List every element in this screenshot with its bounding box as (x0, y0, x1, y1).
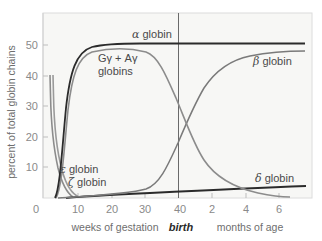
x-tick-6mo: 6 (276, 203, 282, 215)
delta-globin-label: δ globin (255, 172, 294, 185)
x-tick-0: 0 (33, 203, 39, 215)
beta-globin-label: β globin (252, 55, 292, 68)
x-tick-20: 20 (106, 203, 118, 215)
y-tick-40: 40 (26, 70, 38, 82)
gamma-globin-label-line1: Gγ + Aγ (98, 52, 138, 64)
x-tick-10: 10 (72, 203, 84, 215)
x-tick-30: 30 (139, 203, 151, 215)
epsilon-globin-label: ε globin (60, 163, 98, 176)
y-tick-30: 30 (26, 100, 38, 112)
x-tick-40: 40 (174, 203, 186, 215)
x-axis-birth-label: birth (169, 221, 194, 233)
y-tick-20: 20 (26, 131, 38, 143)
gamma-globin-label-line2: globins (98, 65, 133, 77)
x-tick-2mo: 2 (209, 203, 215, 215)
zeta-globin-label: ζ globin (68, 176, 106, 189)
y-tick-10: 10 (26, 161, 38, 173)
globin-chart: 50 40 30 20 10 0 10 20 30 40 2 4 6 perce… (0, 0, 322, 241)
x-tick-4mo: 4 (243, 203, 249, 215)
alpha-globin-label: α globin (132, 28, 172, 41)
y-tick-50: 50 (26, 39, 38, 51)
y-axis-title: percent of total globin chains (5, 45, 17, 179)
x-axis-title-weeks: weeks of gestation (71, 221, 159, 233)
x-axis-title-months: months of age (217, 221, 284, 233)
